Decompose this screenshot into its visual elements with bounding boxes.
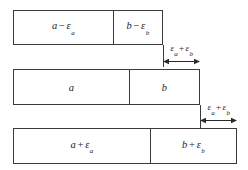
dimension-upper: εa+εb xyxy=(163,44,200,66)
segment-label-a-plus-eps-a: a+εa xyxy=(71,139,94,153)
bar-row-upper-limit: a+εa b+εb xyxy=(13,128,237,164)
bar-row-nominal: a b xyxy=(13,69,200,105)
dimension-lower-label: εa+εb xyxy=(200,102,237,115)
segment-b: b xyxy=(129,70,199,104)
segment-b-minus-eps-b: b−εb xyxy=(113,11,162,44)
segment-a-plus-eps-a: a+εa xyxy=(14,129,150,163)
segment-label-b-plus-eps-b: b+εb xyxy=(182,139,205,153)
bar-row-lower-limit: a−εa b−εb xyxy=(13,10,163,45)
dimension-lower-arrow-icon xyxy=(200,116,237,125)
dimension-upper-label: εa+εb xyxy=(163,43,200,56)
segment-label-b-minus-eps-b: b−εb xyxy=(127,20,150,34)
dimension-upper-arrow-icon xyxy=(163,57,200,66)
dimension-lower: εa+εb xyxy=(200,103,237,125)
diagram-canvas: a−εa b−εb εa+εb a xyxy=(0,0,248,170)
segment-label-a-minus-eps-a: a−εa xyxy=(52,20,75,34)
segment-b-plus-eps-b: b+εb xyxy=(150,129,236,163)
segment-label-b: b xyxy=(162,82,167,93)
segment-a: a xyxy=(14,70,129,104)
segment-label-a: a xyxy=(69,82,74,93)
segment-a-minus-eps-a: a−εa xyxy=(14,11,113,44)
